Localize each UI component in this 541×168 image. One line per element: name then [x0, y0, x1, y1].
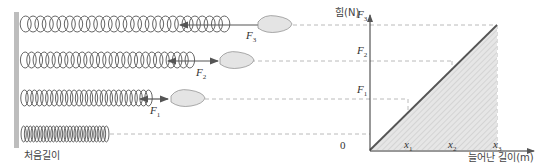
x-tick-x2: x2 [448, 139, 456, 153]
y-tick-f1: F1 [357, 84, 367, 98]
spring-0 [20, 16, 230, 32]
spring-3 [21, 126, 109, 142]
force-label-f3: F3 [246, 30, 256, 44]
force-label-f2: F2 [196, 67, 206, 81]
spring-1 [20, 52, 194, 68]
y-axis-label: 힘(N) [335, 8, 359, 18]
initial-length-caption: 처음길이 [24, 151, 60, 161]
y-tick-f3: F3 [357, 9, 367, 23]
spring-diagram [0, 0, 541, 168]
x-tick-x1: x1 [404, 139, 412, 153]
force-label-f1: F1 [150, 105, 160, 119]
x-axis-label: 늘어난 길이(m) [468, 153, 534, 163]
spring-2 [21, 90, 152, 106]
origin-label: 0 [340, 140, 346, 151]
wall [14, 12, 19, 148]
y-tick-f2: F2 [357, 45, 367, 59]
